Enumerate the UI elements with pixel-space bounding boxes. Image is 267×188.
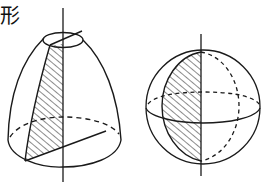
paraboloid-figure [8,8,121,182]
paraboloid-hatched-section [25,44,63,161]
sphere-back-meridian [201,52,239,161]
paraboloid-base-front [8,140,121,167]
paraboloid-base-back [10,117,119,137]
sphere-hatched-section [162,52,201,161]
diagram-canvas [0,0,267,188]
paraboloid-right-side [83,40,121,140]
sphere-figure [146,34,260,176]
